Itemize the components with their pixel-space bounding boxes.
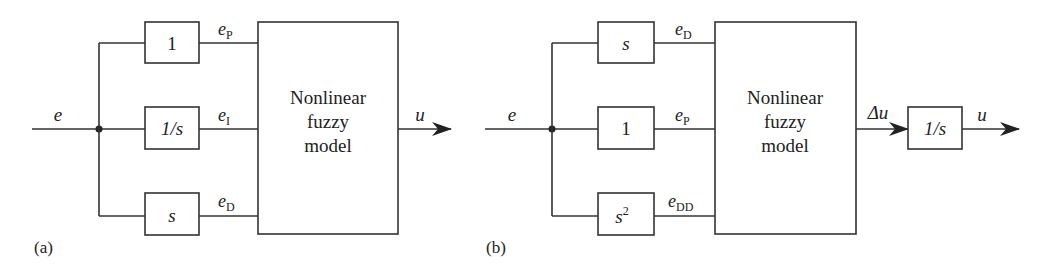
signal-label: eP <box>218 19 233 42</box>
block-label: 1 <box>621 118 631 139</box>
output-label: u <box>415 104 425 125</box>
signal-label: eD <box>675 19 692 42</box>
input-label: e <box>508 104 516 125</box>
model-label-line: Nonlinear <box>747 87 824 108</box>
panel-label: (a) <box>34 238 53 257</box>
block-label: 1/s <box>161 118 183 139</box>
integrator-label: 1/s <box>924 118 946 139</box>
block-label: 1 <box>167 33 177 54</box>
model-label-line: model <box>304 135 352 156</box>
output-label: u <box>977 104 987 125</box>
model-label-line: model <box>761 135 809 156</box>
model-label-line: Nonlinear <box>290 87 367 108</box>
block-label: s <box>622 33 629 54</box>
delta-u-label: Δu <box>867 102 889 123</box>
block-label: s <box>168 205 175 226</box>
signal-label: eP <box>675 105 690 128</box>
signal-label: eDD <box>668 191 694 214</box>
signal-label: eI <box>218 105 230 128</box>
fuzzy-controller-diagram: e 1 1/s s eP eI eD Nonlinear fuzzy model… <box>0 0 1045 273</box>
panel-label: (b) <box>486 238 506 257</box>
panel-b: e s 1 s2 eD eP eDD Nonlinear fuzzy model… <box>485 19 1019 257</box>
model-label-line: fuzzy <box>307 111 350 132</box>
model-label-line: fuzzy <box>764 111 807 132</box>
input-label: e <box>54 104 62 125</box>
signal-label: eD <box>218 191 235 214</box>
panel-a: e 1 1/s s eP eI eD Nonlinear fuzzy model… <box>32 19 451 257</box>
